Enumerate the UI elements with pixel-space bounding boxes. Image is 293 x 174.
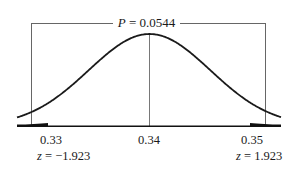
z-value-right: = 1.923 xyxy=(241,149,282,163)
p-var: P xyxy=(118,15,126,30)
p-value-title: P = 0.0544 xyxy=(0,16,293,29)
z-label-left: z = −1.923 xyxy=(37,150,90,163)
z-label-right: z = 1.923 xyxy=(236,150,282,163)
tick-label-0.34: 0.34 xyxy=(138,134,160,147)
p-value: = 0.0544 xyxy=(126,15,176,30)
tick-label-0.33: 0.33 xyxy=(40,134,62,147)
tick-label-0.35: 0.35 xyxy=(241,134,263,147)
normal-curve xyxy=(17,34,281,117)
z-value-left: = −1.923 xyxy=(42,149,90,163)
